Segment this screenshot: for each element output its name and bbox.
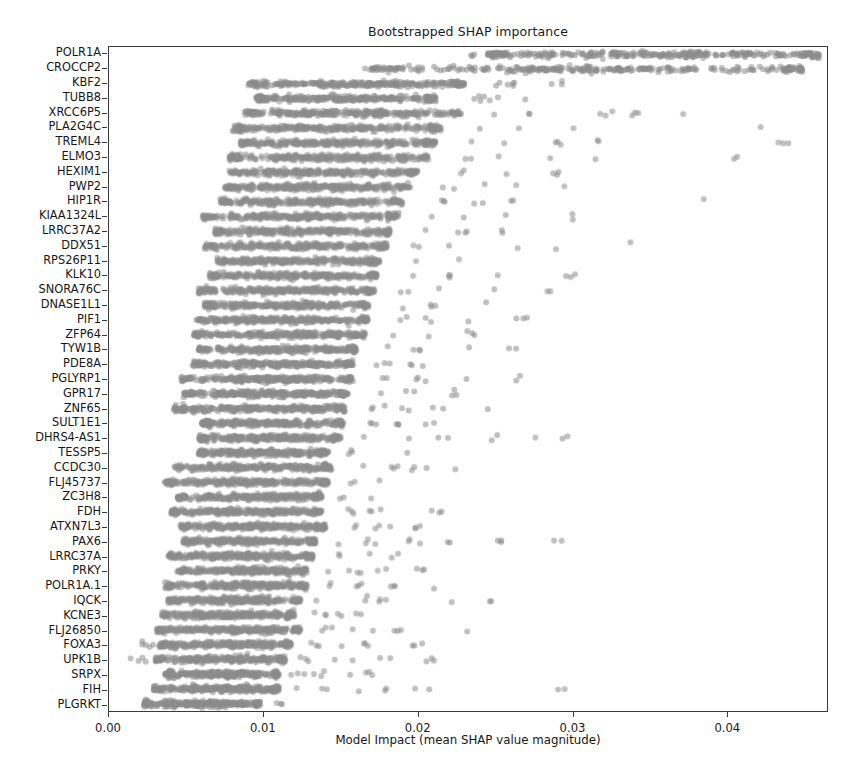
y-tick-mark xyxy=(102,497,107,498)
y-tick-mark xyxy=(102,660,107,661)
y-tick-mark xyxy=(102,453,107,454)
y-tick-mark xyxy=(102,364,107,365)
y-tick-mark xyxy=(102,379,107,380)
y-tick-label-snora76c: SNORA76C xyxy=(39,284,101,295)
y-tick-label-hexim1: HEXIM1 xyxy=(57,166,101,177)
y-tick-label-pla2g4c: PLA2G4C xyxy=(48,122,101,133)
y-tick-mark xyxy=(102,542,107,543)
y-tick-mark xyxy=(102,172,107,173)
y-tick-label-pde8a: PDE8A xyxy=(63,358,101,369)
x-tick-mark xyxy=(263,712,264,717)
y-tick-mark xyxy=(102,557,107,558)
y-tick-label-srpx: SRPX xyxy=(71,669,101,680)
y-tick-label-fdh: FDH xyxy=(77,506,101,517)
y-tick-mark xyxy=(102,645,107,646)
y-tick-mark xyxy=(102,335,107,336)
y-tick-label-elmo3: ELMO3 xyxy=(61,151,101,162)
y-tick-mark xyxy=(102,512,107,513)
plot-area xyxy=(108,46,828,712)
y-tick-mark xyxy=(102,616,107,617)
x-tick-mark xyxy=(727,712,728,717)
y-tick-label-tyw1b: TYW1B xyxy=(61,344,101,355)
y-tick-mark xyxy=(102,216,107,217)
y-tick-label-pwp2: PWP2 xyxy=(69,181,101,192)
y-tick-mark xyxy=(102,231,107,232)
x-axis-title: Model Impact (mean SHAP value magnitude) xyxy=(108,733,828,747)
y-tick-mark xyxy=(102,246,107,247)
y-tick-label-sult1e1: SULT1E1 xyxy=(52,418,101,429)
y-tick-mark xyxy=(102,261,107,262)
y-tick-mark xyxy=(102,690,107,691)
y-tick-mark xyxy=(102,142,107,143)
y-tick-label-prky: PRKY xyxy=(72,566,101,577)
y-tick-mark xyxy=(102,483,107,484)
y-tick-label-treml4: TREML4 xyxy=(56,136,102,147)
y-tick-mark xyxy=(102,394,107,395)
y-tick-mark xyxy=(102,438,107,439)
y-tick-label-dnase1l1: DNASE1L1 xyxy=(41,299,101,310)
y-tick-mark xyxy=(102,275,107,276)
y-tick-label-flj45737: FLJ45737 xyxy=(49,477,102,488)
y-tick-label-pax6: PAX6 xyxy=(72,536,101,547)
y-tick-mark xyxy=(102,349,107,350)
y-tick-mark xyxy=(102,305,107,306)
y-tick-label-atxn7l3: ATXN7L3 xyxy=(50,521,101,532)
y-tick-mark xyxy=(102,705,107,706)
y-tick-mark xyxy=(102,157,107,158)
y-axis-labels: POLR1ACROCCP2KBF2TUBB8XRCC6P5PLA2G4CTREM… xyxy=(0,46,101,712)
y-tick-label-kcne3: KCNE3 xyxy=(63,610,101,621)
y-tick-label-pglyrp1: PGLYRP1 xyxy=(51,373,101,384)
y-tick-label-zfp64: ZFP64 xyxy=(65,329,101,340)
y-tick-mark xyxy=(102,571,107,572)
y-tick-mark xyxy=(102,83,107,84)
y-tick-label-hip1r: HIP1R xyxy=(67,196,101,207)
y-tick-mark xyxy=(102,601,107,602)
y-tick-label-ddx51: DDX51 xyxy=(61,240,101,251)
y-tick-mark xyxy=(102,290,107,291)
y-tick-label-foxa3: FOXA3 xyxy=(63,640,101,651)
x-tick-mark xyxy=(573,712,574,717)
y-tick-mark xyxy=(102,113,107,114)
y-tick-label-gpr17: GPR17 xyxy=(63,388,101,399)
figure-canvas: Bootstrapped SHAP importance POLR1ACROCC… xyxy=(0,0,849,778)
y-tick-mark xyxy=(102,320,107,321)
x-tick-mark xyxy=(108,712,109,717)
y-tick-mark xyxy=(102,201,107,202)
page-title: Bootstrapped SHAP importance xyxy=(108,24,828,39)
y-tick-label-upk1b: UPK1B xyxy=(63,654,101,665)
y-tick-label-flj26850: FLJ26850 xyxy=(49,625,102,636)
y-tick-label-lrrc37a2: LRRC37A2 xyxy=(42,225,101,236)
y-tick-mark xyxy=(102,409,107,410)
y-tick-mark xyxy=(102,68,107,69)
y-tick-label-lrrc37a: LRRC37A xyxy=(49,551,101,562)
y-tick-label-znf65: ZNF65 xyxy=(64,403,101,414)
y-tick-mark xyxy=(102,527,107,528)
y-tick-label-rps26p11: RPS26P11 xyxy=(43,255,101,266)
y-tick-label-tessp5: TESSP5 xyxy=(58,447,101,458)
y-tick-label-ccdc30: CCDC30 xyxy=(54,462,101,473)
y-tick-label-iqck: IQCK xyxy=(73,595,101,606)
y-tick-mark xyxy=(102,468,107,469)
y-tick-mark xyxy=(102,675,107,676)
y-tick-label-croccp2: CROCCP2 xyxy=(46,62,101,73)
y-tick-label-klk10: KLK10 xyxy=(65,270,101,281)
y-tick-label-xrcc6p5: XRCC6P5 xyxy=(49,107,101,118)
y-tick-label-kiaa1324l: KIAA1324L xyxy=(39,210,101,221)
y-tick-label-pif1: PIF1 xyxy=(77,314,101,325)
y-tick-mark xyxy=(102,53,107,54)
y-tick-label-kbf2: KBF2 xyxy=(72,77,101,88)
y-tick-label-plgrkt: PLGRKT xyxy=(58,699,102,710)
y-tick-mark xyxy=(102,98,107,99)
y-tick-label-tubb8: TUBB8 xyxy=(63,92,101,103)
y-tick-label-polr1a-1: POLR1A.1 xyxy=(45,580,101,591)
y-tick-mark xyxy=(102,586,107,587)
y-tick-mark xyxy=(102,127,107,128)
y-tick-mark xyxy=(102,631,107,632)
scatter-plot-canvas xyxy=(109,47,827,711)
y-tick-label-polr1a: POLR1A xyxy=(56,48,101,59)
y-tick-mark xyxy=(102,187,107,188)
y-tick-mark xyxy=(102,423,107,424)
y-tick-label-zc3h8: ZC3H8 xyxy=(62,492,101,503)
y-tick-label-dhrs4-as1: DHRS4-AS1 xyxy=(35,432,101,443)
x-tick-mark xyxy=(418,712,419,717)
